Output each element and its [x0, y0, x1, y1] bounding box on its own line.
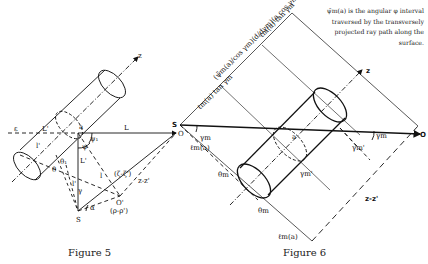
fig5-label-O: O: [178, 130, 184, 138]
fig6-label-gamma-m-prime-1: γm': [352, 144, 365, 152]
fig5-label-l: l: [100, 172, 103, 180]
fig6-label-theta-m-1: θm: [218, 171, 229, 179]
fig6-label-z: z: [366, 67, 370, 75]
fig5-label-psi1: ψ₁: [90, 135, 98, 143]
fig5-label-rho-diff: (ρ-ρ'): [110, 207, 128, 215]
figure-6-note: ψ̄m(a) is the angular φ interval travers…: [324, 6, 424, 48]
fig5-label-epsilon: ε: [14, 125, 18, 133]
fig5-label-zeta-diff: (ζ-ζ'): [114, 170, 132, 178]
fig6-dim-top: ℓm(a) tan γm: [258, 1, 297, 40]
fig5-label-l-prime: l': [36, 142, 40, 150]
fig6-label-a: a: [292, 133, 296, 141]
fig5-label-z: z: [138, 52, 142, 60]
fig5-label-L: L: [124, 124, 129, 132]
fig6-label-z-diff: z-z': [365, 195, 378, 203]
fig6-label-O: O: [420, 131, 426, 139]
fig5-label-z-diff: z-z': [138, 177, 150, 185]
fig5-label-L-prime-vert: L': [80, 157, 87, 165]
fig5-label-psi: ψ: [82, 143, 88, 151]
fig6-label-S: S: [172, 121, 177, 129]
figure-6-caption: Figure 6: [283, 247, 326, 258]
fig5-label-l-prime-s: l': [72, 180, 76, 188]
fig6-label-gamma-m-s: γm: [200, 134, 211, 142]
fig5-label-S: S: [76, 216, 81, 224]
fig5-label-alpha: α: [90, 204, 95, 212]
fig5-label-O-prime: O': [116, 199, 124, 207]
fig6-label-gamma-m-o: γm: [376, 132, 387, 140]
fig5-label-a: a: [79, 123, 83, 131]
fig5-label-theta: θ: [52, 166, 56, 174]
fig6-label-theta-m-2: θm: [258, 207, 269, 215]
figure-5-caption: Figure 5: [68, 247, 111, 258]
fig6-label-gamma-m-prime-2: γm': [300, 170, 313, 178]
fig5-label-theta1: θ₁: [60, 158, 67, 166]
figure-5-diagram: [8, 57, 176, 211]
fig6-label-l-m-a-1: ℓm(a): [190, 144, 210, 152]
fig6-label-l-m-a-2: ℓm(a): [278, 233, 298, 241]
fig5-label-gamma: γ: [78, 187, 82, 195]
fig5-label-L-prime: L': [42, 125, 49, 133]
